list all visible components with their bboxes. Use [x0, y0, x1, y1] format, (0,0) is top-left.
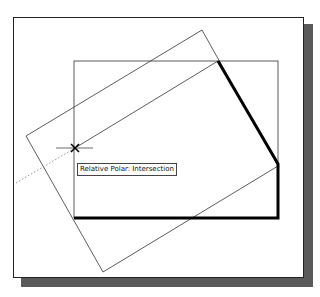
snap-tooltip: Relative Polar: Intersection: [77, 163, 177, 176]
rotated-rectangle[interactable]: [26, 30, 278, 272]
drawing-geometry: [0, 0, 320, 297]
polar-tracking-line: [16, 148, 75, 183]
construction-line[interactable]: [75, 61, 218, 148]
thick-polyline[interactable]: [74, 61, 278, 218]
drawing-canvas[interactable]: Relative Polar: Intersection: [0, 0, 320, 297]
inner-rectangle[interactable]: [74, 61, 278, 218]
